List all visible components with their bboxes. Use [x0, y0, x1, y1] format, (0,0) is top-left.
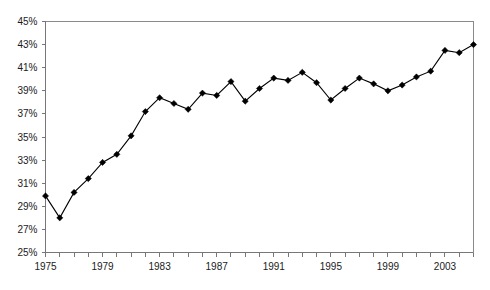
data-point-marker [385, 88, 391, 94]
y-tick-label: 39% [17, 85, 37, 96]
data-point-markers [42, 42, 476, 221]
x-axis-ticks [46, 253, 474, 257]
y-tick-label: 31% [17, 178, 37, 189]
x-tick-label: 1975 [34, 261, 57, 272]
data-series [46, 45, 474, 218]
data-point-marker [456, 50, 462, 56]
x-tick-label: 2003 [434, 261, 457, 272]
y-tick-label: 43% [17, 39, 37, 50]
data-point-marker [442, 47, 448, 53]
series-line [46, 45, 474, 218]
plot-frame [46, 22, 474, 253]
data-point-marker [428, 68, 434, 74]
x-tick-label: 1979 [91, 261, 114, 272]
data-point-marker [371, 81, 377, 87]
y-tick-label: 29% [17, 201, 37, 212]
x-axis-tick-labels: 19751979198319871991199519992003 [34, 261, 456, 272]
data-point-marker [470, 42, 476, 48]
y-tick-label: 37% [17, 108, 37, 119]
y-axis-tick-labels: 25%27%29%31%33%35%37%39%41%43%45% [17, 16, 37, 258]
data-point-marker [57, 215, 63, 221]
data-point-marker [399, 82, 405, 88]
chart-container: 25%27%29%31%33%35%37%39%41%43%45% 197519… [0, 0, 490, 290]
y-tick-label: 41% [17, 62, 37, 73]
y-tick-label: 27% [17, 224, 37, 235]
y-tick-label: 35% [17, 132, 37, 143]
y-tick-label: 45% [17, 16, 37, 27]
x-tick-label: 1991 [263, 261, 286, 272]
x-tick-label: 1999 [377, 261, 400, 272]
x-tick-label: 1995 [320, 261, 343, 272]
y-tick-label: 33% [17, 155, 37, 166]
data-point-marker [413, 74, 419, 80]
line-chart: 25%27%29%31%33%35%37%39%41%43%45% 197519… [0, 0, 490, 290]
x-tick-label: 1987 [206, 261, 229, 272]
x-tick-label: 1983 [149, 261, 172, 272]
y-tick-label: 25% [17, 247, 37, 258]
data-point-marker [42, 193, 48, 199]
data-point-marker [285, 77, 291, 83]
y-axis-ticks [42, 22, 46, 253]
data-point-marker [171, 100, 177, 106]
